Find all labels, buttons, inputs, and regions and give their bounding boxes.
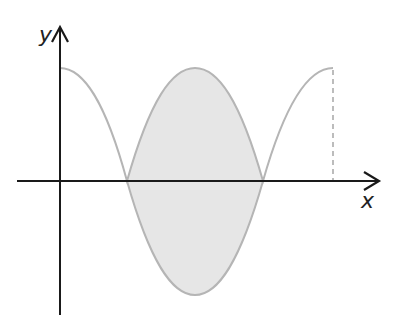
x-axis-label: x: [361, 190, 374, 212]
y-axis-label: y: [39, 24, 52, 46]
function-graph: [0, 0, 401, 331]
